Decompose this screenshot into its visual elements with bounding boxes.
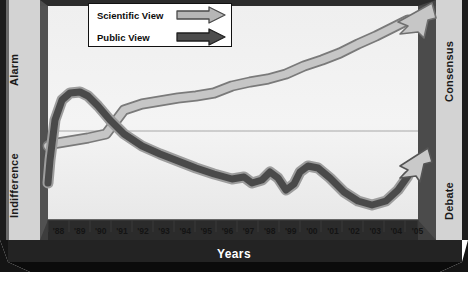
x-tick-label: '99 <box>280 223 301 239</box>
x-tick-label: '98 <box>259 223 280 239</box>
x-tick-label: '05 <box>407 223 428 239</box>
legend-swatch-scientific-view <box>175 4 231 26</box>
axis-label-debate: Debate <box>443 150 455 220</box>
x-tick-label: '89 <box>69 223 90 239</box>
x-axis-title: Years <box>0 247 468 261</box>
plot-bevel-right <box>418 0 436 240</box>
x-tick-label: '90 <box>90 223 111 239</box>
frame-right-edge <box>462 0 468 240</box>
legend-item-scientific-view: Scientific View <box>89 4 231 26</box>
x-tick-label: '04 <box>386 223 407 239</box>
x-tick-label: '94 <box>175 223 196 239</box>
x-tick-label: '97 <box>238 223 259 239</box>
x-tick-label: '92 <box>132 223 153 239</box>
chart-legend: Scientific View Public View <box>88 3 232 47</box>
chart-figure: Alarm Indifference Consensus Debate '88 … <box>0 0 468 284</box>
axis-label-consensus: Consensus <box>443 12 455 102</box>
x-tick-label: '96 <box>217 223 238 239</box>
x-tick-label: '95 <box>196 223 217 239</box>
dark-gray-arrow-icon <box>177 29 225 45</box>
x-tick-label: '03 <box>365 223 386 239</box>
x-tick-label: '02 <box>344 223 365 239</box>
bottom-bar-shadow <box>8 262 462 272</box>
legend-label-scientific-view: Scientific View <box>97 10 175 21</box>
legend-swatch-public-view <box>175 26 231 48</box>
x-tick-label: '91 <box>111 223 132 239</box>
x-tick-label: '00 <box>301 223 322 239</box>
x-tick-label: '88 <box>48 223 69 239</box>
chart-canvas <box>0 0 468 284</box>
x-tick-label: '93 <box>154 223 175 239</box>
x-tick-label: '01 <box>322 223 343 239</box>
axis-label-indifference: Indifference <box>8 128 20 218</box>
axis-label-alarm: Alarm <box>8 6 20 86</box>
x-axis-tick-labels: '88 '89 '90 '91 '92 '93 '94 '95 '96 '97 … <box>48 223 428 239</box>
legend-label-public-view: Public View <box>97 32 175 43</box>
legend-item-public-view: Public View <box>89 26 231 48</box>
plot-bevel-left <box>40 0 48 240</box>
light-gray-arrow-icon <box>177 7 225 23</box>
